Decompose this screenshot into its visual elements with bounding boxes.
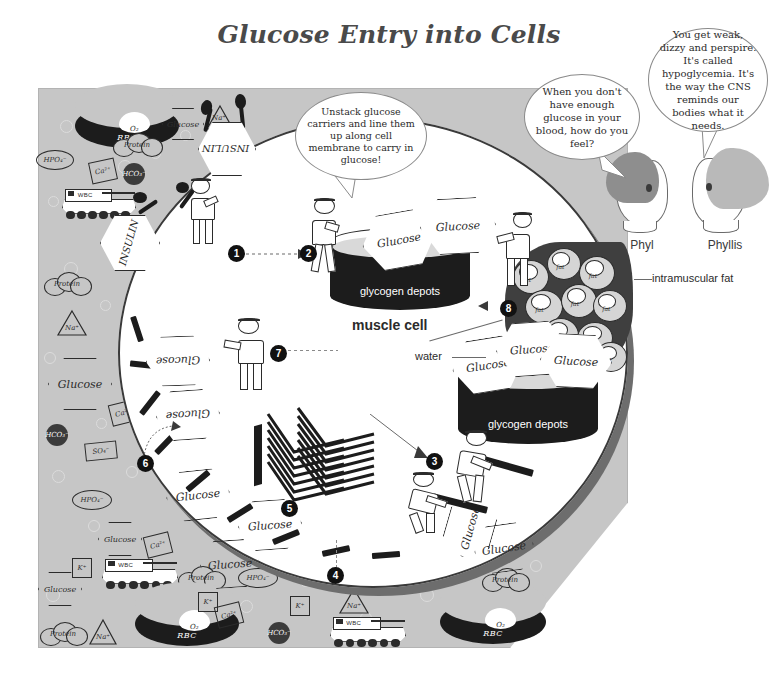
worker-hair bbox=[238, 318, 260, 321]
question-speech-bubble: When you don't have enough glucose in yo… bbox=[524, 74, 640, 160]
oxygen-label: O₂ bbox=[179, 610, 210, 631]
tank-hatch bbox=[108, 561, 115, 566]
worker-figure-3 bbox=[452, 430, 492, 502]
oxygen-label: O₂ bbox=[485, 608, 517, 629]
plasma-bubble bbox=[88, 520, 100, 532]
step-marker-8[interactable]: 8 bbox=[500, 300, 517, 317]
worker-leg bbox=[426, 513, 435, 533]
plasma-bubble bbox=[52, 470, 65, 483]
water-label: water bbox=[415, 350, 442, 362]
worker-leg bbox=[457, 474, 472, 503]
worker-figure-4 bbox=[404, 472, 444, 534]
phyllis-head: Phyllis bbox=[686, 150, 764, 232]
svg-text:Na⁺: Na⁺ bbox=[64, 324, 79, 332]
bicarbonate-molecule: HCO₃⁻ bbox=[46, 424, 68, 446]
bicarbonate-molecule: HCO₃⁻ bbox=[268, 622, 290, 644]
sodium-triangle-shape: Na⁺ bbox=[338, 586, 370, 616]
worker-head bbox=[413, 472, 434, 487]
tank-wheels bbox=[334, 639, 399, 647]
worker-leg bbox=[520, 258, 528, 286]
sodium-triangle-shape: Na⁺ bbox=[56, 308, 88, 338]
glycogen-depots-label: glycogen depots bbox=[330, 285, 470, 297]
phyllis-name-label: Phyllis bbox=[686, 238, 764, 252]
sodium-label: Na⁺ bbox=[212, 114, 226, 122]
phyl-neck bbox=[623, 221, 657, 233]
svg-text:Na⁺: Na⁺ bbox=[346, 602, 361, 610]
plasma-bubble bbox=[60, 120, 73, 133]
protein-molecule: Protein bbox=[44, 272, 90, 296]
insulin-label-wrap: INSULIN bbox=[198, 122, 254, 174]
step-marker-6[interactable]: 6 bbox=[137, 455, 154, 472]
sulfate-molecule: SO₄⁻ bbox=[84, 440, 118, 461]
red-blood-cell: O₂ RBC bbox=[440, 600, 546, 644]
potassium-molecule: K⁺ bbox=[72, 558, 92, 578]
protein-label: Protein bbox=[40, 622, 86, 646]
rbc-label: RBC bbox=[135, 631, 239, 640]
tank-hatch bbox=[336, 619, 343, 624]
protein-molecule: Protein bbox=[40, 622, 86, 646]
worker-hair bbox=[513, 212, 533, 215]
worker-leg bbox=[205, 219, 212, 244]
plasma-bubble bbox=[44, 352, 56, 364]
insulin-receptor-head bbox=[133, 192, 147, 203]
step-marker-4[interactable]: 4 bbox=[327, 567, 344, 584]
muscle-cell-label: muscle cell bbox=[352, 317, 428, 333]
protein-label: Protein bbox=[113, 133, 161, 157]
protein-label: Protein bbox=[44, 272, 90, 296]
svg-text:Na⁺: Na⁺ bbox=[95, 633, 110, 641]
worker-leg bbox=[253, 363, 261, 390]
water-leader bbox=[452, 357, 486, 358]
worker-leg bbox=[409, 512, 424, 534]
diagram-canvas: Glucose Entry into Cells O₂ RBC Protein … bbox=[0, 0, 778, 677]
tank-barrel bbox=[102, 192, 135, 195]
plasma-bubble bbox=[100, 300, 111, 311]
answer-speech-bubble: You get weak, dizzy and perspire. It's c… bbox=[648, 28, 768, 132]
plasma-bubble bbox=[420, 588, 434, 602]
wbc-label: WBC bbox=[118, 562, 133, 568]
step-marker-7[interactable]: 7 bbox=[270, 345, 287, 362]
worker-head bbox=[238, 318, 259, 334]
fat-globule: fat bbox=[561, 284, 597, 318]
worker-leg bbox=[193, 219, 200, 244]
rbc-label: RBC bbox=[440, 629, 546, 638]
step-marker-5[interactable]: 5 bbox=[281, 500, 298, 517]
step-marker-3[interactable]: 3 bbox=[426, 453, 443, 470]
plasma-bubble bbox=[48, 196, 59, 207]
worker-figure-8 bbox=[500, 212, 536, 286]
tank-hatch bbox=[68, 191, 74, 196]
oxygen-label: O₂ bbox=[119, 112, 150, 133]
worker-figure-7 bbox=[232, 318, 270, 390]
worker-head bbox=[513, 212, 532, 228]
fat-globule: fat bbox=[547, 248, 581, 280]
step-marker-2[interactable]: 2 bbox=[300, 245, 317, 262]
instruction-speech-bubble: Unstack glucose carriers and line them u… bbox=[295, 92, 427, 180]
white-blood-cell-tank: WBC bbox=[330, 616, 404, 648]
worker-hair bbox=[191, 178, 211, 181]
worker-leg bbox=[473, 474, 485, 502]
worker-torso bbox=[238, 340, 264, 364]
insulin-label: INSULIN bbox=[202, 143, 249, 154]
worker-figure-1 bbox=[186, 178, 220, 244]
worker-leg bbox=[507, 258, 515, 286]
worker-leg bbox=[240, 363, 248, 390]
plasma-bubble bbox=[240, 600, 253, 613]
tank-barrel bbox=[371, 620, 405, 623]
step-marker-1[interactable]: 1 bbox=[228, 245, 245, 262]
glycogen-depots-label: glycogen depots bbox=[458, 418, 598, 430]
step7-leader bbox=[282, 350, 338, 351]
phosphate-molecule: HPO₄⁻ bbox=[72, 490, 112, 510]
tank-barrel bbox=[143, 562, 177, 565]
bicarbonate-molecule: HCO₃⁻ bbox=[123, 163, 145, 185]
intramuscular-fat-leader bbox=[634, 279, 652, 280]
plasma-bubble bbox=[96, 418, 107, 429]
plasma-bubble bbox=[530, 560, 542, 572]
potassium-molecule: K⁺ bbox=[290, 596, 310, 616]
phyl-name-label: Phyl bbox=[606, 238, 678, 252]
step-leader-4 bbox=[336, 540, 338, 568]
worker-head bbox=[191, 178, 211, 194]
worker-hair bbox=[465, 430, 487, 433]
worker-leg bbox=[324, 243, 336, 272]
worker-hair bbox=[413, 472, 434, 475]
protein-molecule: Protein bbox=[113, 133, 161, 157]
insulin-label: INSULIN bbox=[117, 218, 141, 267]
